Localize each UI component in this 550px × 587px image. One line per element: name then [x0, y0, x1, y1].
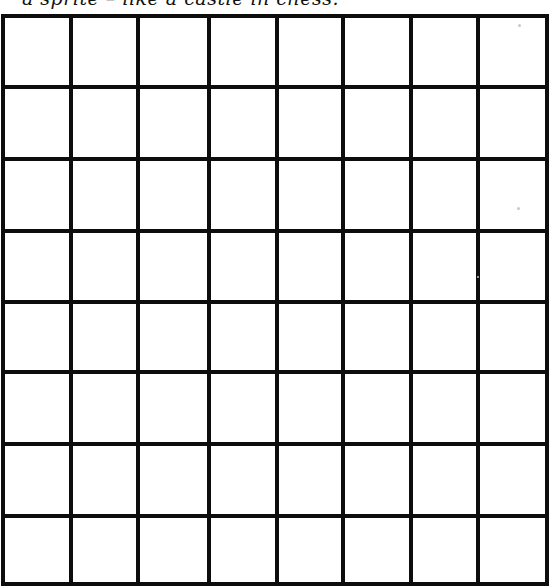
grid-cell — [413, 89, 476, 157]
grid-cell — [73, 233, 136, 300]
grid-cell — [5, 518, 69, 582]
grid-cell — [345, 161, 409, 229]
grid-cell — [279, 446, 341, 514]
grid-vertical-line — [409, 14, 413, 586]
grid-cell — [345, 374, 409, 442]
grid-cell — [480, 161, 545, 229]
grid-cell — [211, 374, 275, 442]
grid-cell — [5, 89, 69, 157]
grid-cell — [413, 161, 476, 229]
grid-cell — [140, 233, 207, 300]
grid-cell — [413, 304, 476, 370]
grid-cell — [5, 304, 69, 370]
grid-cell — [140, 18, 207, 85]
grid-cell — [73, 304, 136, 370]
grid-cell — [480, 446, 545, 514]
grid-cell — [73, 446, 136, 514]
grid-cell — [5, 374, 69, 442]
grid-cell — [480, 374, 545, 442]
grid-vertical-line — [545, 14, 549, 586]
grid-cell — [5, 161, 69, 229]
grid-cell — [279, 89, 341, 157]
grid-cell — [73, 518, 136, 582]
grid-cell — [211, 161, 275, 229]
grid-cell — [140, 446, 207, 514]
grid-cell — [413, 374, 476, 442]
grid-cell — [140, 89, 207, 157]
grid-cell — [345, 89, 409, 157]
grid-cell — [140, 304, 207, 370]
grid-cell — [73, 161, 136, 229]
grid-vertical-line — [136, 14, 140, 586]
grid-cell — [480, 233, 545, 300]
grid-cell — [345, 446, 409, 514]
grid-cell — [279, 304, 341, 370]
grid-cell — [211, 304, 275, 370]
grid-cell — [279, 518, 341, 582]
grid-vertical-line — [275, 14, 279, 586]
grid-vertical-line — [476, 14, 480, 586]
grid-cell — [413, 18, 476, 85]
grid-cell — [211, 446, 275, 514]
grid-cell — [211, 233, 275, 300]
grid-cell — [5, 18, 69, 85]
grid-cell — [211, 18, 275, 85]
grid-cell — [211, 518, 275, 582]
grid-cell — [279, 233, 341, 300]
grid-vertical-line — [69, 14, 73, 586]
grid-cell — [211, 89, 275, 157]
grid-cell — [279, 18, 341, 85]
grid-cell — [140, 374, 207, 442]
grid-cell — [413, 518, 476, 582]
grid-cell — [480, 304, 545, 370]
smudge-mark — [517, 207, 520, 210]
grid-vertical-line — [341, 14, 345, 586]
grid-cell — [345, 18, 409, 85]
grid-cell — [73, 374, 136, 442]
smudge-mark — [477, 276, 479, 278]
grid-cell — [73, 89, 136, 157]
grid-cell — [413, 446, 476, 514]
grid-cell — [480, 518, 545, 582]
grid-cell — [140, 518, 207, 582]
grid-cell — [345, 233, 409, 300]
grid-cell — [5, 446, 69, 514]
grid-cell — [279, 374, 341, 442]
grid-cell — [345, 304, 409, 370]
grid-cell — [140, 161, 207, 229]
grid-cell — [345, 518, 409, 582]
grid-cell — [73, 18, 136, 85]
grid-cell — [480, 18, 545, 85]
grid-cell — [5, 233, 69, 300]
smudge-mark — [518, 24, 521, 27]
grid-cell — [413, 233, 476, 300]
grid-cell — [480, 89, 545, 157]
chess-board-grid — [0, 0, 550, 587]
grid-cell — [279, 161, 341, 229]
grid-vertical-line — [1, 14, 5, 586]
grid-vertical-line — [207, 14, 211, 586]
